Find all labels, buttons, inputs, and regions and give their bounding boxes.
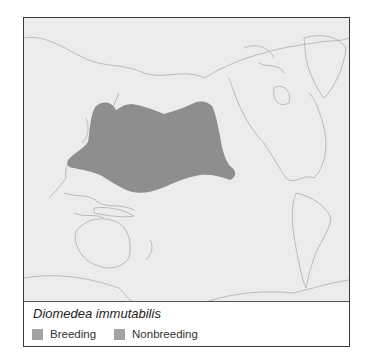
- legend-item-nonbreeding: Nonbreeding: [114, 328, 198, 340]
- south-america-outline: [292, 193, 331, 288]
- breeding-swatch-icon: [32, 329, 43, 340]
- map-legend: Diomedea immutabilis Breeding Nonbreedin…: [24, 302, 349, 346]
- breeding-range-area: [67, 102, 235, 193]
- australia-outline: [75, 219, 130, 268]
- species-name: Diomedea immutabilis: [33, 306, 161, 321]
- greenland-outline: [304, 36, 346, 98]
- legend-label-nonbreeding: Nonbreeding: [132, 328, 198, 340]
- antarctica-coastline: [24, 276, 349, 301]
- north-america-coastline: [229, 78, 326, 181]
- nonbreeding-swatch-icon: [114, 329, 125, 340]
- legend-label-breeding: Breeding: [50, 328, 96, 340]
- world-map: [24, 18, 349, 302]
- map-graphic: [24, 18, 349, 301]
- legend-item-breeding: Breeding: [32, 328, 96, 340]
- legend-items: Breeding Nonbreeding: [32, 328, 216, 340]
- range-map-figure: Diomedea immutabilis Breeding Nonbreedin…: [23, 17, 350, 347]
- arctic-coastline: [24, 37, 349, 78]
